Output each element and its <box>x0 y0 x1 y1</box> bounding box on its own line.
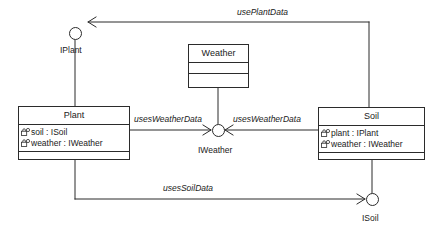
connector-label-soil-usesweatherdata: usesWeatherData <box>233 115 301 124</box>
interface-label-iplant: IPlant <box>60 46 82 55</box>
class-operations-weather <box>189 74 248 87</box>
class-box-weather[interactable]: Weather <box>188 44 249 88</box>
class-attributes-weather <box>189 63 248 74</box>
private-attribute-icon <box>21 139 30 147</box>
lollipop-iplant[interactable] <box>69 27 82 40</box>
class-box-plant[interactable]: Plant soil : ISoil <box>18 106 130 160</box>
attribute-text: weather : IWeather <box>31 138 103 149</box>
connector-label-plant-usesweatherdata: usesWeatherData <box>134 115 202 124</box>
lollipop-isoil[interactable] <box>366 193 379 206</box>
uml-diagram-canvas: IPlant IWeather ISoil Plant soil : ISoil <box>0 0 441 235</box>
class-attributes-plant: soil : ISoil weather : IWeather <box>19 125 129 152</box>
attribute-text: weather : IWeather <box>331 139 403 150</box>
connector-label-useplantdata: usePlantData <box>237 8 288 17</box>
private-attribute-icon <box>21 128 30 136</box>
private-attribute-icon <box>321 140 330 148</box>
class-attributes-soil: plant : IPlant weather : IWeather <box>319 126 424 153</box>
attribute-row: plant : IPlant <box>319 128 424 139</box>
attribute-text: soil : ISoil <box>31 127 67 138</box>
class-operations-plant <box>19 152 129 161</box>
attribute-row: soil : ISoil <box>19 127 129 138</box>
attribute-text: plant : IPlant <box>331 128 378 139</box>
private-attribute-icon <box>321 129 330 137</box>
class-name-plant: Plant <box>19 107 129 125</box>
class-name-soil: Soil <box>319 108 424 126</box>
interface-label-iweather: IWeather <box>198 146 232 155</box>
attribute-row: weather : IWeather <box>19 138 129 149</box>
class-operations-soil <box>319 153 424 162</box>
class-name-weather: Weather <box>189 45 248 63</box>
lollipop-iweather[interactable] <box>212 124 225 137</box>
class-box-soil[interactable]: Soil plant : IPlant <box>318 107 425 160</box>
connector-label-usessoildata: usesSoilData <box>163 184 213 193</box>
interface-label-isoil: ISoil <box>362 214 379 223</box>
attribute-row: weather : IWeather <box>319 139 424 150</box>
